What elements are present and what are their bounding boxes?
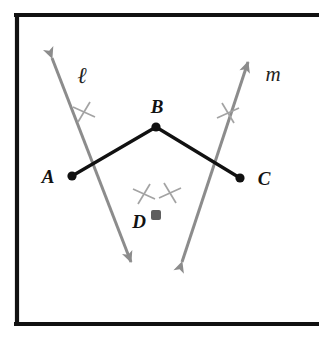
line-label-l: ℓ — [77, 63, 87, 88]
point-label-c: C — [258, 168, 271, 189]
point-label-d: D — [131, 211, 146, 232]
point-label-a: A — [41, 166, 55, 187]
geometry-figure: A B C D ℓ m — [0, 0, 319, 339]
point-c-dot — [235, 173, 244, 182]
line-label-m: m — [265, 62, 280, 86]
point-b-dot — [151, 122, 160, 131]
point-label-b: B — [150, 96, 164, 117]
point-d-dot — [151, 210, 161, 220]
point-a-dot — [67, 171, 76, 180]
figure-canvas: A B C D ℓ m — [0, 0, 319, 339]
